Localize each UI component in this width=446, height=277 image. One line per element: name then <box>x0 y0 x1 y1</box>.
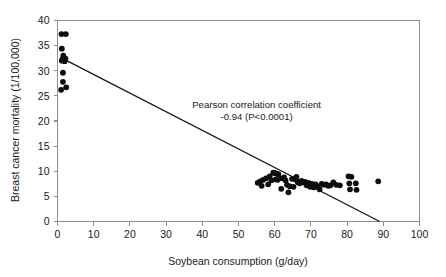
data-point <box>346 180 352 186</box>
data-point <box>291 184 297 190</box>
data-point <box>337 182 343 188</box>
pearson-annotation: Pearson correlation coefficient -0.94 (P… <box>192 99 321 122</box>
y-tick-label-30: 30 <box>38 65 50 77</box>
y-tick-label-15: 15 <box>38 140 50 152</box>
x-tick-label-10: 10 <box>88 228 100 240</box>
data-point <box>375 178 381 184</box>
x-tick-label-70: 70 <box>305 228 317 240</box>
x-axis-title: Soybean consumption (g/day) <box>168 255 308 267</box>
y-tick-label-25: 25 <box>38 90 50 102</box>
y-tick-label-5: 5 <box>44 190 50 202</box>
scatter-plot-figure: 0102030405060708090100 0510152025303540 … <box>0 0 446 277</box>
y-tick-label-40: 40 <box>38 14 50 26</box>
x-tick-label-30: 30 <box>160 228 172 240</box>
data-point <box>286 189 292 195</box>
x-tick-label-20: 20 <box>124 228 136 240</box>
plot-canvas: 0102030405060708090100 0510152025303540 … <box>0 0 446 277</box>
x-tick-label-80: 80 <box>341 228 353 240</box>
data-point <box>63 84 69 90</box>
y-tick-label-20: 20 <box>38 115 50 127</box>
data-point <box>294 174 300 180</box>
x-tick-label-0: 0 <box>55 228 61 240</box>
regression-line-group <box>65 60 380 222</box>
data-point <box>259 183 265 189</box>
data-point <box>62 58 68 64</box>
data-point <box>354 187 360 193</box>
pearson-annotation-line1: Pearson correlation coefficient <box>192 99 321 110</box>
x-axis-ticks <box>58 222 420 226</box>
y-tick-label-0: 0 <box>44 215 50 227</box>
x-axis-tick-labels: 0102030405060708090100 <box>55 228 429 240</box>
data-point <box>63 31 69 37</box>
data-point <box>60 70 66 76</box>
data-point <box>317 186 323 192</box>
y-axis-tick-labels: 0510152025303540 <box>38 14 50 227</box>
pearson-annotation-line2: -0.94 (P<0.0001) <box>220 111 292 122</box>
data-point <box>349 174 355 180</box>
y-tick-label-10: 10 <box>38 165 50 177</box>
x-tick-label-100: 100 <box>411 228 429 240</box>
y-axis-ticks <box>54 21 58 222</box>
x-tick-label-40: 40 <box>196 228 208 240</box>
data-point <box>353 180 359 186</box>
regression-line <box>65 60 380 222</box>
x-tick-label-90: 90 <box>377 228 389 240</box>
data-point <box>278 186 284 192</box>
data-point <box>60 79 66 85</box>
y-axis-title: Breast cancer mortality (1/100,000) <box>9 38 21 202</box>
x-tick-label-60: 60 <box>269 228 281 240</box>
y-tick-label-35: 35 <box>38 39 50 51</box>
data-point <box>59 46 65 52</box>
x-tick-label-50: 50 <box>233 228 245 240</box>
data-point <box>58 87 64 93</box>
data-point <box>347 186 353 192</box>
